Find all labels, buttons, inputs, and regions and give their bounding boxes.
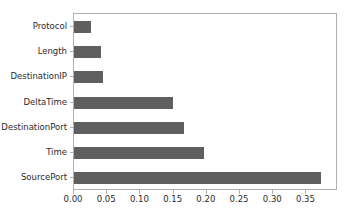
y-tick-mark (70, 127, 74, 128)
x-tick-mark (305, 190, 306, 194)
x-tick-label: 0.35 (296, 195, 315, 204)
x-tick-label: 0.15 (163, 195, 182, 204)
x-tick-label: 0.05 (97, 195, 116, 204)
x-tick-mark (272, 190, 273, 194)
bar-series (74, 14, 336, 189)
x-axis-tick-labels: 0.000.050.100.150.200.250.300.35 (73, 190, 337, 216)
y-tick-mark (70, 76, 74, 77)
x-tick-mark (139, 190, 140, 194)
y-tick-mark (70, 26, 74, 27)
x-tick-mark (106, 190, 107, 194)
x-tick-label: 0.10 (130, 195, 149, 204)
bar-sourceport (74, 172, 321, 184)
bar-protocol (74, 21, 91, 33)
y-tick-mark (70, 177, 74, 178)
y-tick-label-sourceport: SourcePort (21, 173, 67, 182)
y-tick-label-destinationip: DestinationIP (11, 72, 67, 81)
y-tick-label-destinationport: DestinationPort (1, 123, 67, 132)
bar-destinationip (74, 71, 103, 83)
x-tick-mark (173, 190, 174, 194)
bar-length (74, 46, 101, 58)
x-tick-label: 0.25 (230, 195, 249, 204)
y-tick-mark (70, 102, 74, 103)
x-tick-label: 0.20 (196, 195, 215, 204)
x-tick-mark (73, 190, 74, 194)
y-tick-label-time: Time (46, 148, 67, 157)
y-tick-mark (70, 51, 74, 52)
y-tick-label-length: Length (38, 47, 67, 56)
plot-axes (73, 13, 337, 190)
bar-time (74, 147, 204, 159)
y-tick-label-deltatime: DeltaTime (24, 97, 67, 106)
y-tick-mark (70, 152, 74, 153)
bar-destinationport (74, 122, 184, 134)
bar-deltatime (74, 97, 173, 109)
y-axis-tick-labels: ProtocolLengthDestinationIPDeltaTimeDest… (0, 13, 73, 190)
y-tick-label-protocol: Protocol (33, 21, 67, 30)
x-tick-mark (206, 190, 207, 194)
x-tick-label: 0.30 (263, 195, 282, 204)
x-tick-label: 0.00 (64, 195, 83, 204)
x-tick-mark (239, 190, 240, 194)
figure-canvas: ProtocolLengthDestinationIPDeltaTimeDest… (0, 0, 351, 216)
